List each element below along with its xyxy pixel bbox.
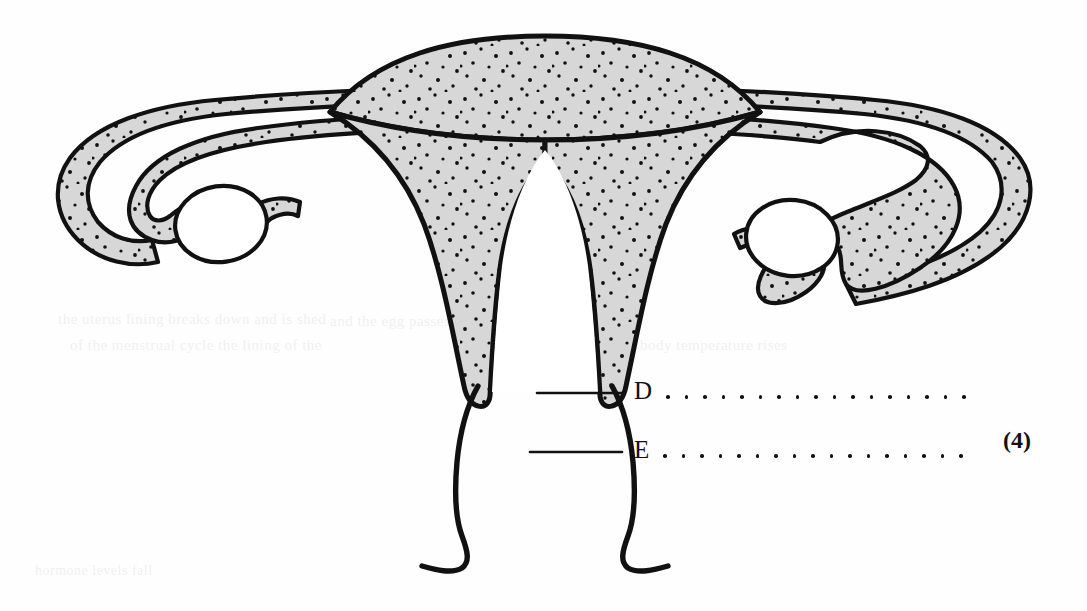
answer-dot (796, 395, 800, 399)
answer-dot (848, 454, 852, 458)
answer-dot (682, 454, 686, 458)
label-letter-e: E (634, 437, 649, 462)
ovary-right (742, 195, 841, 280)
answer-dot (759, 395, 763, 399)
answer-dot (944, 395, 948, 399)
answer-dot (666, 395, 670, 399)
answer-dot (756, 454, 760, 458)
answer-dot (814, 395, 818, 399)
answer-dot (703, 395, 707, 399)
answer-dotted-line-e[interactable] (663, 454, 959, 455)
answer-dot (663, 454, 667, 458)
answer-dot (959, 454, 963, 458)
answer-dot (870, 395, 874, 399)
answer-dot (904, 454, 908, 458)
answer-dot (851, 395, 855, 399)
answer-dotted-line-d[interactable] (666, 395, 962, 396)
answer-dot (722, 395, 726, 399)
answer-row-e[interactable]: E (634, 437, 959, 462)
answer-dot (907, 395, 911, 399)
marks-allocation: (4) (1003, 428, 1031, 452)
answer-dot (867, 454, 871, 458)
reproductive-system-figure (0, 0, 1087, 611)
answer-dot (833, 395, 837, 399)
answer-dot (777, 395, 781, 399)
answer-dot (830, 454, 834, 458)
answer-row-d[interactable]: D (634, 378, 962, 403)
answer-dot (737, 454, 741, 458)
ovary-left (170, 180, 272, 268)
answer-dot (685, 395, 689, 399)
answer-dot (811, 454, 815, 458)
answer-dot (941, 454, 945, 458)
answer-dot (922, 454, 926, 458)
label-letter-d: D (634, 378, 652, 403)
diagram-page: the uterus lining breaks down and is she… (0, 0, 1087, 611)
fundus-of-uterus (330, 36, 760, 140)
answer-dot (962, 395, 966, 399)
answer-dot (774, 454, 778, 458)
answer-dot (888, 395, 892, 399)
answer-dot (793, 454, 797, 458)
cervix-and-vagina (422, 386, 668, 571)
answer-dot (719, 454, 723, 458)
answer-dot (700, 454, 704, 458)
answer-dot (885, 454, 889, 458)
answer-dot (925, 395, 929, 399)
answer-dot (740, 395, 744, 399)
